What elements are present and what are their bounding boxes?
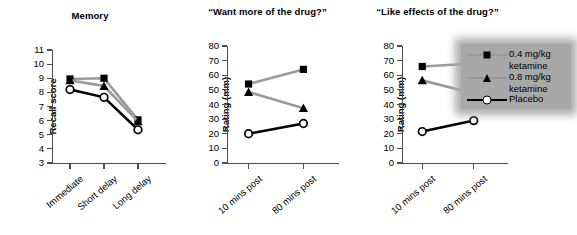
- y-tick-label: 60: [354, 70, 394, 80]
- y-tick-label: 6: [4, 116, 44, 126]
- y-tick-label: 40: [354, 100, 394, 110]
- y-tick-label: 3: [4, 158, 44, 168]
- x-tick-mark: [473, 164, 474, 169]
- y-tick-label: 10: [179, 143, 219, 153]
- series-layer: [52, 50, 152, 163]
- y-tick-label: 10: [4, 59, 44, 69]
- y-tick-label: 50: [354, 85, 394, 95]
- series-line: [249, 124, 304, 134]
- panel-title-memory: Memory: [0, 10, 180, 22]
- data-point-marker: [134, 126, 142, 134]
- x-tick-label: 10 mins post: [215, 173, 263, 216]
- y-tick-label: 80: [354, 41, 394, 51]
- data-point-marker: [100, 94, 108, 102]
- legend-marker-key: [465, 72, 509, 83]
- y-tick-label: 40: [179, 100, 219, 110]
- y-tick-label: 80: [179, 41, 219, 51]
- y-tick-label: 11: [4, 45, 44, 55]
- legend-marker-key: [465, 94, 509, 105]
- y-tick-label: 30: [179, 114, 219, 124]
- legend-item-2: Placebo: [465, 93, 543, 105]
- chart-panel-like-effects: “Like effects of the drug?” Rating (mm) …: [355, 0, 520, 235]
- data-point-marker: [418, 128, 426, 136]
- y-tick-label: 30: [354, 114, 394, 124]
- data-point-marker: [470, 117, 478, 125]
- y-tick-label: 4: [4, 144, 44, 154]
- x-tick-mark: [248, 164, 249, 169]
- data-point-marker: [300, 120, 308, 128]
- series-filled-triangle: [244, 87, 308, 112]
- data-point-marker: [245, 80, 252, 87]
- data-point-marker: [245, 130, 253, 138]
- y-tick-label: 8: [4, 87, 44, 97]
- y-tick-label: 50: [179, 85, 219, 95]
- y-tick-label: 9: [4, 73, 44, 83]
- series-line: [249, 69, 304, 84]
- data-point-marker: [419, 63, 426, 70]
- legend-item-1: 0.8 mg/kg ketamine: [465, 71, 551, 94]
- y-tick-label: 70: [354, 56, 394, 66]
- series-filled-square: [245, 66, 307, 88]
- x-tick-mark: [69, 164, 70, 169]
- legend-label: 0.8 mg/kg ketamine: [509, 71, 551, 94]
- x-tick-mark: [303, 164, 304, 169]
- x-tick-label: 80 mins post: [270, 173, 318, 216]
- plot-area-want-more: 0102030405060708010 mins post80 mins pos…: [227, 46, 325, 163]
- square-marker-icon: [484, 51, 491, 58]
- y-tick-label: 0: [354, 158, 394, 168]
- triangle-marker-icon: [483, 74, 491, 82]
- x-tick-mark: [137, 164, 138, 169]
- x-tick-label: 10 mins post: [389, 173, 437, 216]
- panel-title-want-more: “Want more of the drug?”: [180, 6, 355, 18]
- x-tick-mark: [103, 164, 104, 169]
- series-layer: [227, 46, 325, 163]
- y-tick-label: 7: [4, 102, 44, 112]
- x-tick-label: 80 mins post: [440, 173, 488, 216]
- series-open-circle: [418, 117, 477, 136]
- x-tick-mark: [422, 164, 423, 169]
- y-tick-label: 10: [354, 143, 394, 153]
- plot-area-memory: 34567891011ImmediateShort delayLong dela…: [52, 50, 152, 163]
- y-tick-label: 5: [4, 130, 44, 140]
- y-tick-label: 20: [179, 129, 219, 139]
- y-tick-label: 20: [354, 129, 394, 139]
- legend-marker-key: [465, 49, 509, 60]
- y-tick-label: 0: [179, 158, 219, 168]
- legend-label: 0.4 mg/kg ketamine: [509, 48, 551, 71]
- legend-item-0: 0.4 mg/kg ketamine: [465, 48, 551, 71]
- series-line: [249, 92, 304, 108]
- panel-title-like-effects: “Like effects of the drug?”: [355, 6, 520, 18]
- data-point-marker: [66, 86, 74, 94]
- chart-panel-want-more: “Want more of the drug?” Rating (mm) 010…: [180, 0, 355, 235]
- y-tick-label: 70: [179, 56, 219, 66]
- data-point-marker: [100, 75, 107, 82]
- circle-marker-icon: [483, 95, 492, 104]
- data-point-marker: [300, 66, 307, 73]
- series-legend: 0.4 mg/kg ketamine0.8 mg/kg ketaminePlac…: [461, 44, 571, 109]
- x-axis-line: [227, 163, 339, 164]
- series-line: [422, 121, 474, 132]
- x-axis-line: [402, 163, 508, 164]
- legend-label: Placebo: [509, 93, 543, 105]
- chart-panel-memory: Memory Recall score 34567891011Immediate…: [0, 0, 180, 235]
- series-open-circle: [245, 120, 307, 138]
- y-tick-label: 60: [179, 70, 219, 80]
